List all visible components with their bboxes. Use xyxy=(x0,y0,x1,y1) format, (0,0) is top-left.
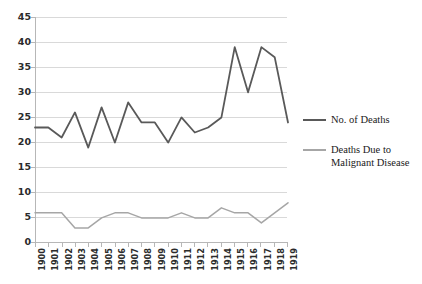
y-axis-tick-label: 30 xyxy=(5,87,31,97)
y-axis-tick-label: 0 xyxy=(5,237,31,247)
x-axis-tick xyxy=(101,243,102,247)
y-axis-tick-label: 40 xyxy=(5,37,31,47)
x-axis-tick xyxy=(168,243,169,247)
x-axis-tick xyxy=(62,243,63,247)
x-axis-tick xyxy=(154,243,155,247)
x-axis-tick xyxy=(141,243,142,247)
x-axis-tick-label: 1909 xyxy=(158,248,166,271)
y-axis-tick-label: 20 xyxy=(5,137,31,147)
x-axis-tick-label: 1918 xyxy=(277,248,285,271)
x-axis-tick-label: 1905 xyxy=(105,248,113,271)
y-axis-tick xyxy=(31,142,35,143)
x-axis-tick-label: 1913 xyxy=(211,248,219,271)
series-container xyxy=(35,17,288,243)
x-axis-tick-label: 1904 xyxy=(91,248,99,271)
x-axis-tick xyxy=(128,243,129,247)
x-axis-labels: 1900190119021903190419051906190719081909… xyxy=(35,248,288,284)
series-line-no-of-deaths xyxy=(35,47,288,147)
x-axis-tick-label: 1902 xyxy=(65,248,73,271)
legend-swatch-icon-secondary xyxy=(303,149,326,151)
y-axis-labels: 051015202530354045 xyxy=(0,0,31,284)
x-axis-tick xyxy=(207,243,208,247)
x-axis-tick-label: 1908 xyxy=(144,248,152,271)
legend-swatch-icon-primary xyxy=(303,119,326,121)
y-axis-tick-label: 25 xyxy=(5,112,31,122)
y-axis-tick xyxy=(31,92,35,93)
x-axis-tick xyxy=(48,243,49,247)
x-axis-tick-label: 1917 xyxy=(264,248,272,271)
legend-item-no-of-deaths[interactable]: No. of Deaths xyxy=(303,113,418,126)
y-axis-tick xyxy=(31,192,35,193)
series-line-malignant-disease xyxy=(35,203,288,228)
legend-label-primary: No. of Deaths xyxy=(331,113,390,126)
x-axis-tick xyxy=(115,243,116,247)
y-axis-tick xyxy=(31,117,35,118)
x-axis-tick-label: 1903 xyxy=(78,248,86,271)
y-axis-tick xyxy=(31,67,35,68)
x-axis-tick xyxy=(234,243,235,247)
y-axis-tick-label: 45 xyxy=(5,12,31,22)
x-axis-tick xyxy=(260,243,261,247)
x-axis-tick-label: 1911 xyxy=(184,248,192,271)
x-axis-tick xyxy=(247,243,248,247)
x-axis-tick xyxy=(221,243,222,247)
x-axis-tick-label: 1915 xyxy=(237,248,245,271)
x-axis-tick-label: 1907 xyxy=(131,248,139,271)
x-axis-tick xyxy=(274,243,275,247)
y-axis-tick xyxy=(31,42,35,43)
x-axis-tick xyxy=(181,243,182,247)
line-chart: 051015202530354045 190019011902190319041… xyxy=(0,0,422,284)
x-axis-tick-label: 1910 xyxy=(171,248,179,271)
x-axis-tick xyxy=(287,243,288,247)
y-axis-tick xyxy=(31,17,35,18)
y-axis-tick-label: 10 xyxy=(5,187,31,197)
x-axis-tick xyxy=(75,243,76,247)
legend-label-secondary: Deaths Due to Malignant Disease xyxy=(331,143,418,169)
x-axis-tick-label: 1912 xyxy=(197,248,205,271)
x-axis-tick-label: 1906 xyxy=(118,248,126,271)
y-axis-tick-label: 15 xyxy=(5,162,31,172)
x-axis-tick-label: 1900 xyxy=(38,248,46,271)
x-axis-tick-label: 1914 xyxy=(224,248,232,271)
y-axis-tick xyxy=(31,217,35,218)
x-axis-tick-label: 1919 xyxy=(290,248,298,271)
legend-item-malignant-disease[interactable]: Deaths Due to Malignant Disease xyxy=(303,143,418,169)
x-axis-tick xyxy=(194,243,195,247)
chart-legend: No. of Deaths Deaths Due to Malignant Di… xyxy=(303,113,418,186)
y-axis-tick xyxy=(31,167,35,168)
y-axis-tick-label: 35 xyxy=(5,62,31,72)
x-axis-tick xyxy=(35,243,36,247)
x-axis-tick-label: 1901 xyxy=(51,248,59,271)
x-axis-tick-label: 1916 xyxy=(250,248,258,271)
y-axis-tick-label: 5 xyxy=(5,212,31,222)
x-axis-tick xyxy=(88,243,89,247)
